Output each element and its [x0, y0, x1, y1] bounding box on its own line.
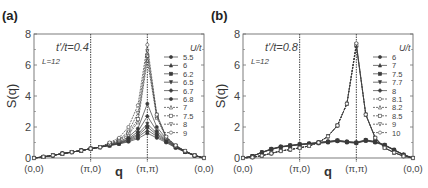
- x-tick-label: (0,0): [233, 163, 253, 174]
- y-tick-label: 6: [25, 59, 31, 71]
- marker-circle-icon: [241, 156, 244, 159]
- marker-circle-icon: [51, 154, 54, 157]
- marker-circle-icon: [169, 97, 172, 100]
- marker-circle-icon: [317, 141, 320, 144]
- panel-b: (b)02468S(q)(0,0)(π,0)(π,π)(0,0)qt'/t=0.…: [211, 8, 423, 179]
- marker-circle-icon: [393, 151, 396, 154]
- marker-down-triangle-icon: [169, 81, 172, 85]
- marker-circle-icon: [345, 102, 348, 105]
- legend-item: 7.7: [373, 78, 402, 87]
- x-tick-label: (π,π): [345, 163, 367, 174]
- y-tick-label: 2: [25, 121, 31, 133]
- marker-down-triangle-icon: [169, 123, 172, 127]
- marker-circle-icon: [378, 97, 381, 100]
- marker-circle-icon: [308, 144, 311, 147]
- x-tick-label: (π,π): [136, 163, 158, 174]
- legend-title: U/t: [190, 43, 202, 53]
- legend-title: U/t: [399, 43, 411, 53]
- marker-circle-icon: [155, 125, 158, 128]
- marker-circle-icon: [146, 43, 149, 46]
- marker-diamond-icon: [169, 89, 173, 93]
- marker-circle-icon: [202, 156, 205, 159]
- marker-diamond-icon: [378, 89, 382, 93]
- marker-circle-icon: [184, 149, 187, 152]
- legend-label: 9: [183, 129, 187, 138]
- parameter-annotation: t'/t=0.4: [56, 41, 89, 53]
- marker-circle-icon: [336, 124, 339, 127]
- chart-svg: (a)02468S(q)(0,0)(π,0)(π,π)(0,0)qt'/t=0.…: [0, 0, 428, 188]
- x-tick-label: (0,0): [403, 163, 423, 174]
- x-tick-label: (π,0): [289, 163, 310, 174]
- x-tick-label: (π,0): [80, 163, 101, 174]
- marker-circle-icon: [251, 156, 254, 159]
- y-tick-label: 8: [25, 28, 31, 40]
- marker-down-triangle-icon: [378, 81, 381, 85]
- marker-circle-icon: [136, 104, 139, 107]
- marker-circle-icon: [364, 113, 367, 116]
- marker-square-icon: [378, 72, 381, 75]
- legend-item: 7.5: [164, 112, 193, 121]
- panel-a: (a)02468S(q)(0,0)(π,0)(π,π)(0,0)qt'/t=0.…: [2, 8, 214, 179]
- marker-diamond-icon: [145, 114, 149, 118]
- marker-circle-icon: [61, 152, 64, 155]
- marker-square-icon: [169, 72, 172, 75]
- marker-circle-icon: [378, 55, 381, 58]
- y-tick-label: 6: [234, 59, 240, 71]
- figure: (a)02468S(q)(0,0)(π,0)(π,π)(0,0)qt'/t=0.…: [0, 0, 428, 188]
- y-tick-label: 4: [234, 90, 240, 102]
- legend-item: 5.5: [164, 53, 193, 62]
- x-tick-label: (0,0): [194, 163, 214, 174]
- legend-label: 10: [392, 129, 400, 138]
- y-tick-label: 2: [234, 121, 240, 133]
- marker-circle-icon: [298, 146, 301, 149]
- panel-label: (b): [211, 8, 228, 23]
- marker-circle-icon: [378, 131, 381, 134]
- marker-square-icon: [169, 114, 172, 117]
- marker-circle-icon: [146, 132, 149, 135]
- marker-circle-icon: [108, 141, 111, 144]
- legend-item: 6.8: [164, 95, 193, 104]
- y-axis-label: S(q): [213, 84, 228, 109]
- marker-circle-icon: [99, 146, 102, 149]
- panel-label: (a): [2, 8, 18, 23]
- marker-circle-icon: [42, 155, 45, 158]
- series-6_8: [32, 102, 205, 159]
- y-axis-label: S(q): [4, 84, 19, 109]
- marker-circle-icon: [169, 131, 172, 134]
- marker-circle-icon: [169, 55, 172, 58]
- marker-circle-icon: [127, 125, 130, 128]
- series-8: [241, 138, 415, 160]
- marker-triangle-icon: [378, 64, 381, 68]
- marker-triangle-icon: [169, 106, 172, 110]
- marker-circle-icon: [383, 146, 386, 149]
- x-axis-label: q: [324, 164, 332, 179]
- marker-circle-icon: [411, 156, 414, 159]
- size-annotation: L=12: [251, 57, 270, 66]
- marker-circle-icon: [89, 147, 92, 150]
- y-tick-label: 4: [25, 90, 31, 102]
- marker-circle-icon: [165, 135, 168, 138]
- marker-circle-icon: [80, 149, 83, 152]
- marker-circle-icon: [117, 136, 120, 139]
- y-tick-label: 8: [234, 28, 240, 40]
- marker-circle-icon: [270, 152, 273, 155]
- parameter-annotation: t'/t=0.8: [265, 41, 299, 53]
- x-axis-label: q: [115, 164, 123, 179]
- marker-circle-icon: [136, 127, 139, 130]
- marker-circle-icon: [289, 148, 292, 151]
- marker-circle-icon: [70, 151, 73, 154]
- marker-circle-icon: [155, 113, 158, 116]
- marker-circle-icon: [374, 136, 377, 139]
- marker-circle-icon: [32, 156, 35, 159]
- marker-circle-icon: [402, 155, 405, 158]
- marker-triangle-icon: [378, 106, 381, 110]
- marker-circle-icon: [279, 149, 282, 152]
- marker-circle-icon: [326, 135, 329, 138]
- marker-circle-icon: [355, 42, 358, 45]
- marker-triangle-icon: [169, 64, 172, 68]
- size-annotation: L=12: [42, 57, 61, 66]
- marker-square-icon: [136, 118, 139, 121]
- marker-circle-icon: [174, 144, 177, 147]
- marker-circle-icon: [193, 154, 196, 157]
- marker-square-icon: [378, 114, 381, 117]
